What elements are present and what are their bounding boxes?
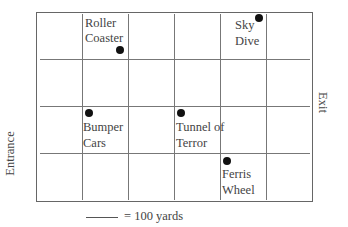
bumper-cars-label-line1: Bumper xyxy=(83,120,123,135)
grid-line xyxy=(220,14,221,200)
exit-label: Exit xyxy=(315,92,330,113)
roller-coaster-label-line2: Coaster xyxy=(85,31,123,46)
sky-dive-label-line2: Dive xyxy=(235,34,259,49)
sky-dive-marker xyxy=(255,14,263,22)
ferris-wheel-marker xyxy=(223,157,231,165)
grid-line xyxy=(40,106,310,107)
grid-line xyxy=(174,14,175,200)
entrance-label: Entrance xyxy=(3,131,18,175)
bumper-cars-marker xyxy=(85,109,93,117)
tunnel-of-terror-marker xyxy=(177,109,185,117)
tunnel-of-terror-label-line1: Tunnel of xyxy=(176,120,225,135)
grid-line xyxy=(40,153,310,154)
grid-line xyxy=(266,14,267,200)
ferris-wheel-label-line2: Wheel xyxy=(222,183,255,198)
roller-coaster-label-line1: Roller xyxy=(85,16,116,31)
grid-line xyxy=(40,59,310,60)
grid-line xyxy=(128,14,129,200)
sky-dive-label-line1: Sky xyxy=(235,18,254,33)
tunnel-of-terror-label-line2: Terror xyxy=(176,136,207,151)
roller-coaster-marker xyxy=(116,46,124,54)
scale-bar xyxy=(86,217,118,218)
scale-label: = 100 yards xyxy=(124,209,183,224)
bumper-cars-label-line2: Cars xyxy=(83,136,106,151)
grid-line xyxy=(82,14,83,200)
ferris-wheel-label-line1: Ferris xyxy=(222,167,251,182)
